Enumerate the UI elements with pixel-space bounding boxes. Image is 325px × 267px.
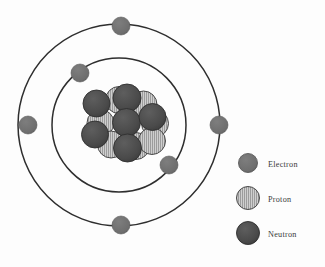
nucleus-neutron: [83, 90, 110, 117]
nucleus-neutron: [114, 134, 142, 162]
nucleus-proton: [139, 128, 166, 155]
electron-inner-upper-left: [71, 64, 89, 82]
legend: ElectronProtonNeutron: [237, 154, 298, 245]
legend-label-electron: Electron: [268, 160, 298, 169]
nucleus-neutron: [113, 84, 141, 112]
electron-inner-lower-right: [160, 156, 178, 174]
legend-label-neutron: Neutron: [268, 230, 297, 239]
electron-outer-bottom: [112, 216, 130, 234]
electron-outer-top: [112, 17, 130, 35]
atom-diagram: ElectronProtonNeutron: [0, 0, 325, 267]
nucleus-neutron: [139, 104, 166, 131]
legend-swatch-electron-icon: [239, 154, 258, 173]
legend-label-proton: Proton: [268, 195, 291, 204]
electron-outer-left: [19, 116, 37, 134]
nucleus-neutron: [113, 109, 141, 137]
legend-swatch-neutron-icon: [237, 222, 260, 245]
nucleus-neutron: [82, 121, 109, 148]
electron-outer-right: [210, 116, 228, 134]
legend-swatch-proton-icon: [237, 187, 260, 210]
